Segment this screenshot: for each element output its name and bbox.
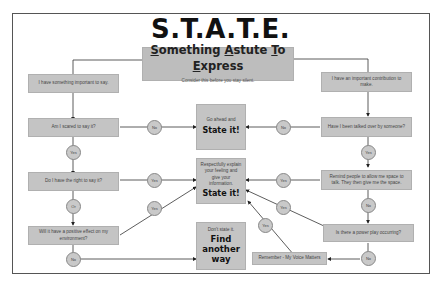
connector-remember-yes: Yes xyxy=(258,218,273,233)
header-box: Something Astute To Express Consider thi… xyxy=(142,47,294,81)
connector-right-q2-no: No xyxy=(361,198,376,213)
right-q2-box: Remind people to allow me space to talk.… xyxy=(321,170,412,190)
connector-left-q2-or: Or xyxy=(66,199,81,214)
connector-right-q2-yes: Yes xyxy=(276,173,291,188)
connector-left-q1-no: No xyxy=(147,120,162,135)
connector-left-q3-yes: Yes xyxy=(147,201,162,216)
header-subtitle: Consider this before you stay silent. xyxy=(182,78,255,84)
connector-right-q3-yes: Yes xyxy=(276,200,291,215)
connector-right-q3-no: No xyxy=(361,251,376,266)
right-q1-box: Have I been talked over by someone? xyxy=(321,117,412,137)
left-q3-box: Will it have a positive effect on my env… xyxy=(28,226,119,245)
right-q3-box: Is there a power play occurring? xyxy=(323,224,414,242)
right-start-box: I have an important contribution to make… xyxy=(321,72,412,92)
left-q2-box: Do I have the right to say it? xyxy=(28,172,119,191)
header-title: Something Astute To Express xyxy=(146,43,290,74)
remember-box: Remember - My Voice Matters xyxy=(252,252,327,265)
left-q1-box: Am I scared to say it? xyxy=(28,118,119,137)
left-start-box: I have something important to say. xyxy=(28,74,119,93)
find-another-way-outcome: Don't state it. Find another way xyxy=(196,222,246,270)
connector-left-q1-yes: Yes xyxy=(66,145,81,160)
connector-right-q1-yes: Yes xyxy=(361,145,376,160)
connector-left-q3-no: No xyxy=(66,252,81,267)
connector-left-q2-yes: Yes xyxy=(147,173,162,188)
go-ahead-outcome: Go ahead and State it! xyxy=(196,104,246,150)
connector-right-q1-no: No xyxy=(276,120,291,135)
respectfully-outcome: Respectfully explain your feeling and gi… xyxy=(196,158,246,204)
